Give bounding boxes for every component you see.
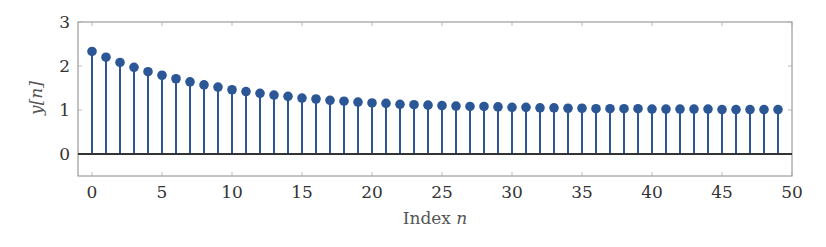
stem-marker (605, 104, 615, 114)
stem-marker (535, 103, 545, 113)
stem-marker (521, 103, 531, 113)
stem-marker (423, 100, 433, 110)
stem-marker (759, 105, 769, 115)
x-tick-label: 35 (571, 182, 593, 202)
y-tick-label: 3 (59, 12, 70, 32)
y-axis-label: y[n] (26, 81, 46, 116)
stem-marker (731, 105, 741, 115)
y-tick-label: 2 (59, 56, 70, 76)
stem-marker (773, 105, 783, 115)
stem-marker (563, 103, 573, 113)
x-axis-label: Index n (403, 208, 468, 228)
stem-marker (367, 98, 377, 108)
stem-marker (297, 93, 307, 103)
stem-marker (507, 103, 517, 113)
stem-marker (157, 70, 167, 80)
x-tick-label: 50 (781, 182, 803, 202)
stem-marker (549, 103, 559, 113)
x-tick-label: 25 (431, 182, 453, 202)
stem-marker (339, 96, 349, 106)
x-tick-label: 15 (291, 182, 313, 202)
stem-marker (213, 82, 223, 92)
stem-marker (437, 101, 447, 111)
stem-marker (675, 104, 685, 114)
data-series (78, 47, 792, 154)
stem-marker (199, 80, 209, 90)
stem-marker (129, 63, 139, 73)
stem-marker (479, 102, 489, 112)
stem-marker (325, 96, 335, 106)
stem-marker (577, 103, 587, 113)
stem-marker (381, 99, 391, 109)
y-tick-label: 1 (59, 100, 70, 120)
stem-marker (87, 47, 97, 57)
stem-marker (255, 88, 265, 98)
stem-marker (185, 77, 195, 87)
stem-marker (493, 102, 503, 112)
x-tick-label: 20 (361, 182, 383, 202)
stem-marker (703, 104, 713, 114)
stem-marker (311, 94, 321, 104)
stem-chart: 051015202530354045500123 Index n y[n] (0, 0, 826, 247)
stem-marker (619, 104, 629, 114)
stem-marker (465, 102, 475, 112)
stem-marker (409, 100, 419, 110)
plot-frame (78, 22, 792, 176)
x-tick-label: 5 (157, 182, 168, 202)
stem-marker (745, 105, 755, 115)
stem-marker (689, 104, 699, 114)
plot-border (78, 22, 792, 176)
stem-marker (647, 104, 657, 114)
stem-marker (283, 92, 293, 102)
x-tick-label: 45 (711, 182, 733, 202)
stem-marker (591, 104, 601, 114)
x-tick-label: 0 (87, 182, 98, 202)
stem-marker (241, 87, 251, 97)
stem-marker (171, 74, 181, 84)
stem-marker (143, 67, 153, 77)
stem-marker (717, 105, 727, 115)
stem-marker (101, 52, 111, 62)
stem-marker (353, 97, 363, 107)
stem-marker (115, 58, 125, 68)
stem-marker (451, 101, 461, 111)
y-tick-label: 0 (59, 144, 70, 164)
stem-marker (395, 99, 405, 109)
stem-marker (661, 104, 671, 114)
x-tick-label: 10 (221, 182, 243, 202)
stem-marker (633, 104, 643, 114)
x-tick-label: 40 (641, 182, 663, 202)
stem-marker (269, 90, 279, 100)
x-tick-label: 30 (501, 182, 523, 202)
stem-marker (227, 85, 237, 95)
